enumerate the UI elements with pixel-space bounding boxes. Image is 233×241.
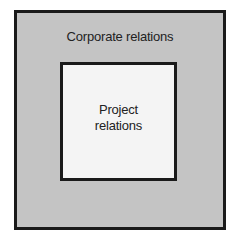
project-relations-label-line1: Project [63,102,174,118]
project-relations-label-line2: relations [63,118,174,134]
corporate-relations-box: Corporate relations Project relations [14,10,226,230]
project-relations-label: Project relations [63,102,174,134]
corporate-relations-label: Corporate relations [17,29,223,44]
project-relations-box: Project relations [60,62,177,181]
